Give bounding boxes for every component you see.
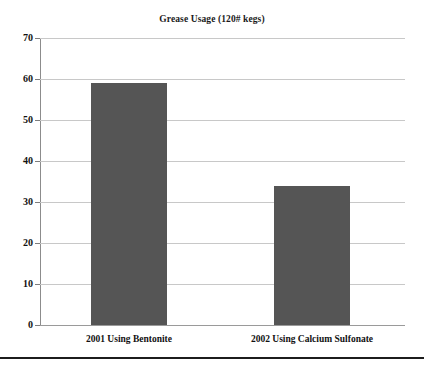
gridline-70	[40, 38, 405, 39]
y-tick-label-wrap-30: 30	[0, 197, 33, 207]
bottom-divider-rule	[0, 357, 424, 359]
y-tick-label-40: 40	[3, 156, 33, 166]
y-tick-label-wrap-10: 10	[0, 279, 33, 289]
y-tick-label-20: 20	[3, 238, 33, 248]
chart-title: Grease Usage (120# kegs)	[0, 14, 424, 24]
x-axis-label-2: 2002 Using Calcium Sulfonate	[202, 335, 422, 345]
y-tick-label-60: 60	[3, 74, 33, 84]
y-tick-label-0: 0	[3, 320, 33, 330]
y-tick-label-wrap-0: 0	[0, 320, 33, 330]
y-tick-label-50: 50	[3, 115, 33, 125]
y-tick-label-wrap-60: 60	[0, 74, 33, 84]
grease-usage-bar-chart: Grease Usage (120# kegs) 010203040506070…	[0, 0, 424, 373]
plot-area	[40, 38, 405, 325]
y-tick-label-70: 70	[3, 33, 33, 43]
y-tick-label-10: 10	[3, 279, 33, 289]
y-tick-label-30: 30	[3, 197, 33, 207]
gridline-0	[40, 325, 405, 326]
bar-1	[91, 83, 167, 325]
gridline-60	[40, 79, 405, 80]
y-tick-label-wrap-20: 20	[0, 238, 33, 248]
y-tick-label-wrap-50: 50	[0, 115, 33, 125]
y-tick-label-wrap-70: 70	[0, 33, 33, 43]
y-tick-label-wrap-40: 40	[0, 156, 33, 166]
bar-2	[274, 186, 350, 325]
